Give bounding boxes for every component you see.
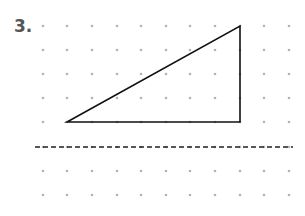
grid-dot [263, 49, 266, 52]
grid-dot [263, 121, 266, 124]
grid-dot [189, 97, 192, 100]
grid-dot [165, 194, 168, 197]
dot-grid [42, 25, 291, 197]
grid-dot [42, 121, 45, 124]
grid-dot [42, 49, 45, 52]
grid-dot [42, 194, 45, 197]
grid-dot [116, 97, 119, 100]
grid-dot [140, 170, 143, 173]
dot-grid-diagram [0, 0, 305, 216]
grid-dot [288, 194, 291, 197]
grid-dot [165, 73, 168, 76]
grid-dot [189, 170, 192, 173]
grid-dot [116, 170, 119, 173]
grid-dot [42, 170, 45, 173]
grid-dot [140, 97, 143, 100]
grid-dot [116, 49, 119, 52]
grid-dot [288, 73, 291, 76]
grid-dot [116, 194, 119, 197]
grid-dot [91, 25, 94, 28]
grid-dot [189, 49, 192, 52]
grid-dot [214, 25, 217, 28]
grid-dot [66, 49, 69, 52]
grid-dot [189, 73, 192, 76]
grid-dot [263, 25, 266, 28]
grid-dot [263, 170, 266, 173]
grid-dot [288, 146, 291, 149]
grid-dot [66, 194, 69, 197]
grid-dot [165, 49, 168, 52]
grid-dot [189, 25, 192, 28]
grid-dot [214, 97, 217, 100]
grid-dot [66, 170, 69, 173]
grid-dot [214, 170, 217, 173]
grid-dot [116, 73, 119, 76]
grid-dot [140, 25, 143, 28]
grid-dot [239, 170, 242, 173]
grid-dot [165, 170, 168, 173]
grid-dot [42, 97, 45, 100]
grid-dot [91, 49, 94, 52]
grid-dot [165, 25, 168, 28]
grid-dot [263, 97, 266, 100]
grid-dot [66, 25, 69, 28]
grid-dot [214, 194, 217, 197]
grid-dot [263, 194, 266, 197]
grid-dot [91, 170, 94, 173]
grid-dot [165, 97, 168, 100]
grid-dot [214, 49, 217, 52]
grid-dot [140, 49, 143, 52]
grid-dot [66, 97, 69, 100]
grid-dot [91, 97, 94, 100]
grid-dot [288, 49, 291, 52]
grid-dot [189, 194, 192, 197]
grid-dot [91, 73, 94, 76]
grid-dot [263, 73, 266, 76]
grid-dot [91, 194, 94, 197]
grid-dot [116, 25, 119, 28]
grid-dot [42, 73, 45, 76]
grid-dot [288, 121, 291, 124]
grid-dot [42, 25, 45, 28]
grid-dot [239, 194, 242, 197]
grid-dot [140, 194, 143, 197]
grid-dot [288, 97, 291, 100]
grid-dot [66, 73, 69, 76]
grid-dot [288, 170, 291, 173]
grid-dot [140, 73, 143, 76]
grid-dot [288, 25, 291, 28]
grid-dot [214, 73, 217, 76]
